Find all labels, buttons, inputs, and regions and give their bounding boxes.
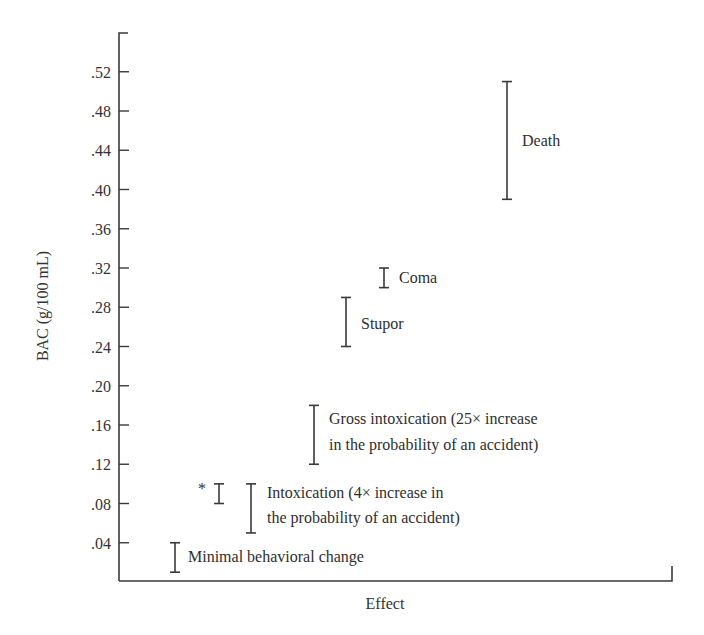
y-tick-label: .44 [91, 142, 111, 159]
y-tick-label: .16 [91, 417, 111, 434]
range-bar [309, 405, 319, 464]
y-tick-label: .32 [91, 260, 111, 277]
range-bar-label: Stupor [361, 315, 404, 333]
range-bar [170, 543, 180, 572]
range-bar-label: Intoxication (4× increase in [267, 484, 444, 502]
y-tick-label: .52 [91, 64, 111, 81]
range-bar [341, 297, 351, 346]
y-tick-label: .36 [91, 221, 111, 238]
y-axis-ticks: .04.08.12.16.20.24.28.32.36.40.44.48.52 [91, 64, 129, 552]
y-tick-label: .48 [91, 103, 111, 120]
x-axis [119, 566, 672, 581]
y-tick-label: .08 [91, 496, 111, 513]
y-tick-label: .28 [91, 299, 111, 316]
y-axis-title: BAC (g/100 mL) [34, 251, 52, 361]
y-tick-label: .04 [91, 535, 111, 552]
range-bar [214, 484, 224, 504]
y-tick-label: .40 [91, 182, 111, 199]
range-bar-label: Gross intoxication (25× increase [329, 410, 538, 428]
range-bar-label: the probability of an accident) [267, 509, 460, 527]
range-bar [379, 268, 389, 288]
range-bar [502, 82, 512, 200]
asterisk-annotation: * [198, 480, 206, 497]
range-bar-label: Coma [399, 269, 437, 286]
bac-effects-chart: .04.08.12.16.20.24.28.32.36.40.44.48.52 … [0, 0, 704, 635]
x-axis-title: Effect [366, 595, 405, 612]
y-tick-label: .24 [91, 339, 111, 356]
range-bar-label: Minimal behavioral change [188, 548, 364, 566]
range-bar-label: in the probability of an accident) [329, 436, 538, 454]
y-tick-label: .20 [91, 378, 111, 395]
range-bar [246, 484, 256, 533]
range-bar-label: Death [522, 132, 560, 149]
range-bar-labels: Minimal behavioral change*Intoxication (… [188, 132, 560, 566]
y-tick-label: .12 [91, 456, 111, 473]
